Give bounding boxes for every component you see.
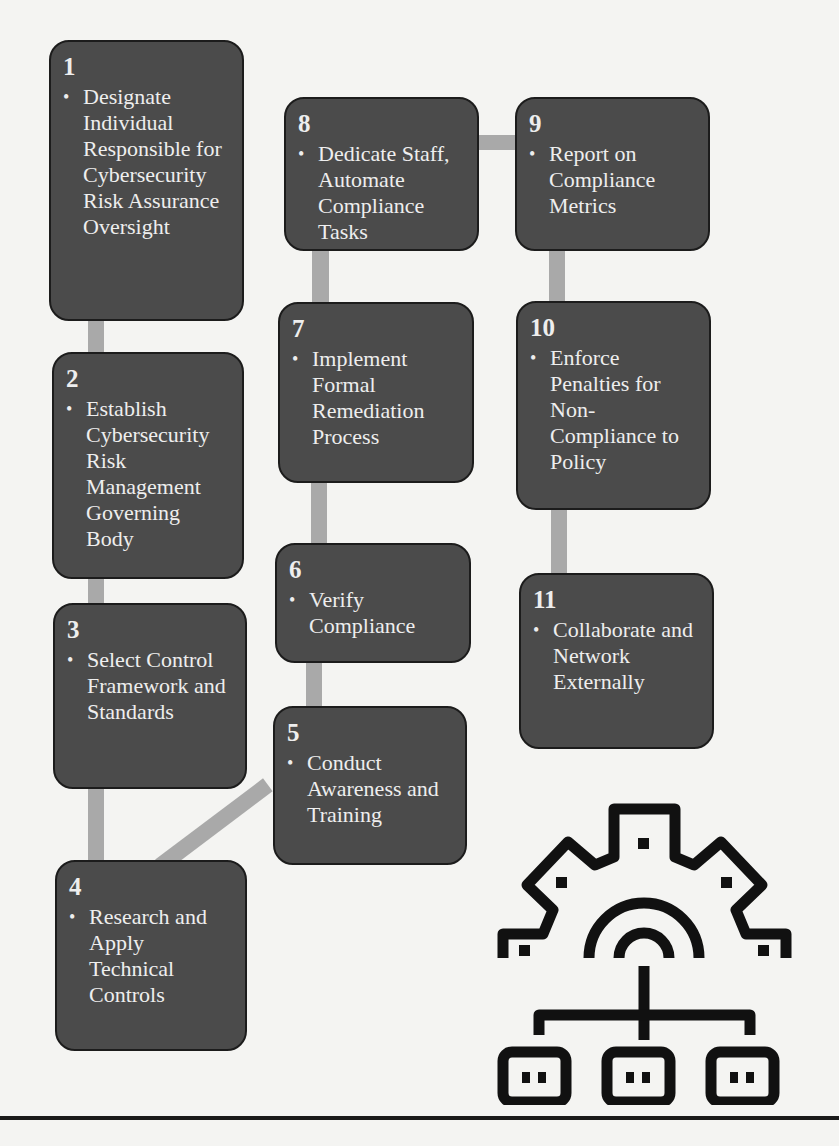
step-box-6: 6 •Verify Compliance [275, 543, 471, 663]
step-number: 2 [66, 364, 230, 394]
connector-1-2 [88, 318, 104, 354]
bottom-divider [0, 1116, 839, 1120]
step-text: Verify Compliance [309, 587, 457, 639]
connector-2-3 [88, 576, 104, 606]
step-text: Designate Individual Responsible for Cyb… [83, 84, 230, 240]
bullet-icon: • [529, 141, 549, 219]
step-text: Select Control Framework and Standards [87, 647, 233, 725]
step-number: 4 [69, 872, 233, 902]
step-text: Enforce Penalties for Non-Compliance to … [550, 345, 697, 475]
step-box-3: 3 •Select Control Framework and Standard… [53, 603, 247, 789]
connector-3-4 [88, 786, 104, 862]
step-text: Research and Apply Technical Controls [89, 904, 233, 1008]
step-box-10: 10 •Enforce Penalties for Non-Compliance… [516, 301, 711, 510]
step-number: 6 [289, 555, 457, 585]
step-number: 7 [292, 314, 460, 344]
step-text: Establish Cybersecurity Risk Management … [86, 396, 230, 552]
step-text: Conduct Awareness and Training [307, 750, 453, 828]
step-box-11: 11 •Collaborate and Network Externally [519, 573, 714, 749]
step-number: 3 [67, 615, 233, 645]
gear-network-icon [490, 795, 820, 1105]
step-text: Collaborate and Network Externally [553, 617, 700, 695]
step-number: 8 [298, 109, 465, 139]
step-text: Dedicate Staff, Automate Compliance Task… [318, 141, 465, 245]
connector-7-8 [312, 248, 329, 304]
step-box-5: 5 •Conduct Awareness and Training [273, 706, 467, 865]
bullet-icon: • [289, 587, 309, 639]
bullet-icon: • [530, 345, 550, 475]
step-box-1: 1 •Designate Individual Responsible for … [49, 40, 244, 321]
bullet-icon: • [287, 750, 307, 828]
step-number: 1 [63, 52, 230, 82]
step-number: 11 [533, 585, 700, 615]
connector-8-9 [476, 135, 517, 150]
bullet-icon: • [63, 84, 83, 240]
step-box-9: 9 •Report on Compliance Metrics [515, 97, 710, 251]
step-box-4: 4 •Research and Apply Technical Controls [55, 860, 247, 1051]
step-number: 10 [530, 313, 697, 343]
bullet-icon: • [67, 647, 87, 725]
bullet-icon: • [533, 617, 553, 695]
step-text: Report on Compliance Metrics [549, 141, 696, 219]
step-number: 9 [529, 109, 696, 139]
step-box-7: 7 •Implement Formal Remediation Process [278, 302, 474, 483]
step-box-2: 2 •Establish Cybersecurity Risk Manageme… [52, 352, 244, 579]
connector-10-11 [551, 507, 567, 575]
connector-9-10 [549, 248, 565, 303]
step-number: 5 [287, 718, 453, 748]
connector-6-7 [311, 480, 327, 545]
bullet-icon: • [69, 904, 89, 1008]
connector-5-6 [306, 660, 322, 708]
bullet-icon: • [298, 141, 318, 245]
step-box-8: 8 •Dedicate Staff, Automate Compliance T… [284, 97, 479, 251]
bullet-icon: • [66, 396, 86, 552]
bullet-icon: • [292, 346, 312, 450]
step-text: Implement Formal Remediation Process [312, 346, 460, 450]
